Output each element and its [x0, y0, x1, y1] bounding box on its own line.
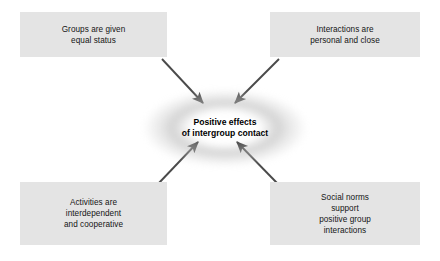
- factor-box-top-left-label: Groups are given equal status: [62, 24, 126, 46]
- center-node: Positive effects of intergroup contact: [140, 88, 310, 168]
- center-node-label: Positive effects of intergroup contact: [182, 117, 268, 140]
- factor-box-top-right: Interactions are personal and close: [270, 12, 420, 57]
- factor-box-bottom-right: Social norms support positive group inte…: [270, 182, 420, 245]
- factor-box-top-left: Groups are given equal status: [20, 12, 167, 57]
- factor-box-bottom-right-label: Social norms support positive group inte…: [319, 192, 371, 236]
- intergroup-contact-diagram: Groups are given equal status Interactio…: [0, 0, 440, 261]
- factor-box-bottom-left-label: Activities are interdependent and cooper…: [64, 197, 123, 230]
- factor-box-top-right-label: Interactions are personal and close: [310, 24, 380, 46]
- factor-box-bottom-left: Activities are interdependent and cooper…: [20, 182, 167, 245]
